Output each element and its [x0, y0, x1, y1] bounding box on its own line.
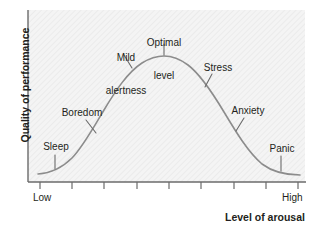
- annotation-label-sleep: Sleep: [35, 141, 77, 152]
- x-tick-label-high: High: [282, 192, 303, 203]
- annotation-label-optimal-level-line1: Optimal: [135, 37, 193, 48]
- y-axis-title: Quality of performance: [19, 5, 33, 165]
- x-tick-label-low: Low: [33, 192, 51, 203]
- x-axis-ticks: [40, 182, 298, 189]
- annotation-label-optimal-level-line2: level: [135, 70, 193, 81]
- yerkes-dodson-figure: Quality of performance Low High Level of…: [0, 0, 320, 231]
- annotation-label-anxiety: Anxiety: [224, 105, 272, 116]
- annotation-label-stress: Stress: [196, 62, 240, 73]
- annotation-label-panic: Panic: [263, 143, 301, 154]
- annotation-label-optimal-level: Optimal level: [135, 15, 193, 103]
- x-axis-title: Level of arousal: [225, 211, 305, 223]
